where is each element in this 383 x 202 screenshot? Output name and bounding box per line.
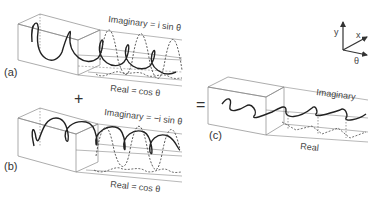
- panel-a-planes: [78, 30, 182, 86]
- equals-operator: =: [196, 96, 205, 113]
- axis-y-label: y: [334, 27, 339, 37]
- panel-b-cosine: [94, 168, 182, 173]
- panel-c: (c) Imaginary Real: [208, 77, 368, 153]
- axis-theta-label: θ: [354, 56, 359, 66]
- panel-b-planes: [76, 124, 182, 182]
- panel-c-real-dashed: [282, 122, 366, 138]
- panel-b: (b) Imaginary = −i sin θ Real = cos θ: [4, 107, 183, 194]
- panel-a-label: (a): [4, 66, 17, 78]
- panel-a-real-label: Real = cos θ: [110, 83, 161, 98]
- x-axis-arrow-icon: [343, 37, 367, 50]
- diagram-canvas: (a) Imaginary = i sin θ Real = cos θ + (…: [0, 0, 383, 202]
- plus-operator: +: [74, 90, 83, 107]
- panel-a-box: [18, 14, 100, 75]
- panel-c-imaginary-label: Imaginary: [316, 87, 357, 102]
- axis-x-label: x: [356, 30, 361, 40]
- panel-b-label: (b): [4, 160, 17, 172]
- panel-c-wave: [222, 99, 366, 120]
- panel-a-imaginary-label: Imaginary = i sin θ: [108, 14, 182, 33]
- panel-a: (a) Imaginary = i sin θ Real = cos θ: [4, 14, 182, 98]
- panel-b-real-label: Real = cos θ: [110, 179, 161, 194]
- panel-b-imaginary-label: Imaginary = −i sin θ: [104, 107, 183, 126]
- panel-a-cosine: [96, 72, 182, 79]
- panel-c-label: (c): [209, 129, 222, 141]
- panel-c-real-label: Real: [300, 141, 319, 153]
- axis-indicator: [343, 22, 367, 55]
- theta-axis-arrow-icon: [343, 50, 367, 55]
